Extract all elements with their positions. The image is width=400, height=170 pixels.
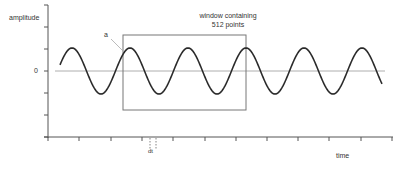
marker-a-label: a: [104, 31, 108, 38]
y-axis-label: amplitude: [9, 14, 39, 21]
window-rectangle: [123, 35, 246, 110]
x-ticks: [48, 137, 392, 141]
dt-label: dt: [148, 148, 153, 154]
zero-label: 0: [34, 67, 38, 74]
marker-a-leader: [111, 39, 123, 51]
x-axis-label: time: [336, 152, 349, 159]
y-ticks: [44, 5, 48, 137]
window-caption-line2: 512 points: [188, 21, 268, 28]
window-caption-line1: window containing: [188, 12, 268, 19]
